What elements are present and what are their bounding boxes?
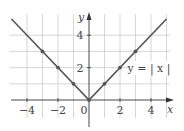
x-axis-arrow-icon <box>166 98 174 103</box>
data-point <box>87 98 91 102</box>
function-label: y = | x | <box>126 61 170 76</box>
y-tick-label: 2 <box>77 62 84 75</box>
x-tick-label: 2 <box>117 104 124 117</box>
data-point <box>72 82 76 86</box>
x-tick-label: 4 <box>148 104 155 117</box>
y-tick-label: 4 <box>77 29 84 42</box>
data-point <box>134 50 138 54</box>
y-axis-arrow-icon <box>87 12 92 20</box>
x-tick-label: 0 <box>81 104 88 117</box>
x-tick-label: −2 <box>50 104 66 117</box>
x-tick-label: −4 <box>19 104 35 117</box>
y-axis-label: y <box>77 11 85 24</box>
function-label-text: y = | x | <box>126 62 170 76</box>
data-point <box>56 66 60 70</box>
chart: −4−202424xy y = | x | <box>0 0 184 131</box>
x-axis-label: x <box>167 103 174 116</box>
data-point <box>118 66 122 70</box>
data-point <box>103 82 107 86</box>
data-point <box>41 50 45 54</box>
